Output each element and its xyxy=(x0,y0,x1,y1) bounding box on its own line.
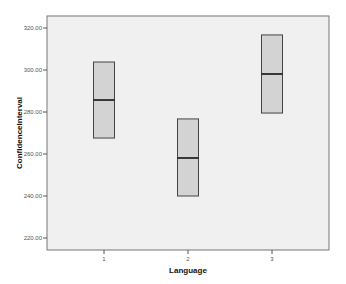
box-category-1 xyxy=(94,62,115,138)
x-tick-label: 1 xyxy=(102,256,106,262)
y-tick-label: 280.00 xyxy=(24,109,43,115)
x-tick-label: 2 xyxy=(186,256,190,262)
y-tick-label: 220.00 xyxy=(24,235,43,241)
box-category-3 xyxy=(262,35,283,113)
y-axis-ticks: 220.00240.00260.00280.00300.00320.00 xyxy=(24,25,47,241)
y-axis-title: ConfidenceInterval xyxy=(15,97,24,169)
x-tick-label: 3 xyxy=(270,256,274,262)
y-tick-label: 260.00 xyxy=(24,151,43,157)
y-tick-label: 320.00 xyxy=(24,25,43,31)
x-axis-title: Language xyxy=(169,266,207,275)
box-plot-chart: 220.00240.00260.00280.00300.00320.00 123… xyxy=(0,0,346,284)
y-tick-label: 300.00 xyxy=(24,67,43,73)
x-axis-ticks: 123 xyxy=(102,250,274,262)
box-category-2 xyxy=(178,119,199,196)
y-tick-label: 240.00 xyxy=(24,193,43,199)
